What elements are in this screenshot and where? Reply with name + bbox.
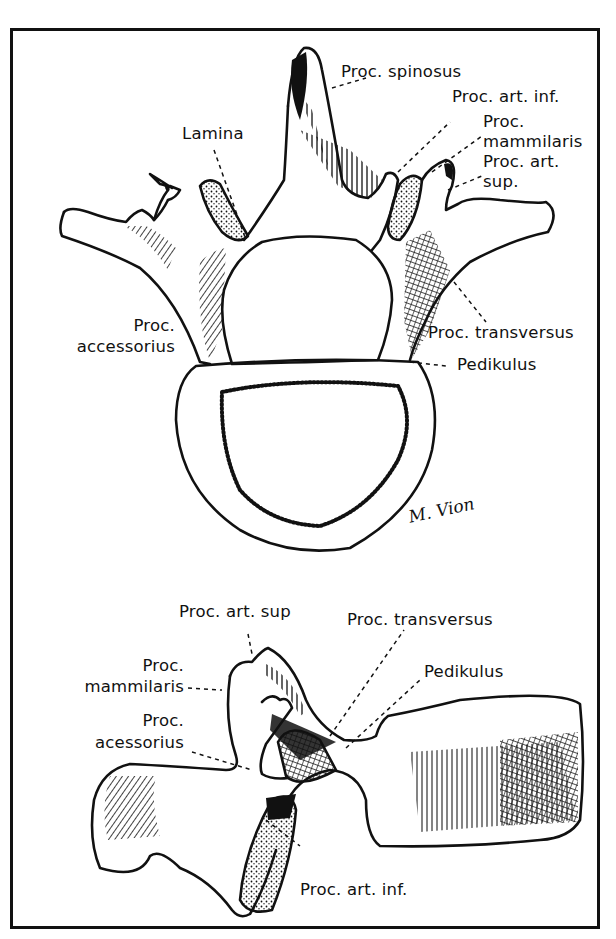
label-side-proc-art-inf: Proc. art. inf. [300, 880, 408, 899]
label-proc-art-sup-line2: sup. [483, 172, 519, 191]
label-pedikulus: Pedikulus [457, 355, 537, 374]
label-proc-accessorius-line1: Proc. [100, 316, 175, 335]
label-side-proc-transversus: Proc. transversus [347, 610, 493, 629]
label-side-proc-mammilaris-line2: mammilaris [60, 677, 184, 696]
label-lamina: Lamina [182, 124, 244, 143]
label-proc-transversus: Proc. transversus [428, 323, 574, 342]
label-proc-accessorius-line2: accessorius [60, 337, 175, 356]
label-side-proc-acessorius-line2: acessorius [60, 733, 184, 752]
label-proc-art-sup-line1: Proc. art. [483, 152, 559, 171]
label-side-proc-acessorius-line1: Proc. [100, 711, 184, 730]
label-proc-art-inf: Proc. art. inf. [452, 87, 560, 106]
label-proc-spinosus: Proc. spinosus [341, 62, 461, 81]
top-view-drawing [60, 48, 553, 551]
label-proc-mammilaris-line2: mammilaris [483, 132, 583, 151]
label-side-pedikulus: Pedikulus [424, 662, 504, 681]
label-side-proc-art-sup: Proc. art. sup [179, 602, 291, 621]
label-side-proc-mammilaris-line1: Proc. [100, 656, 184, 675]
label-proc-mammilaris-line1: Proc. [483, 112, 525, 131]
